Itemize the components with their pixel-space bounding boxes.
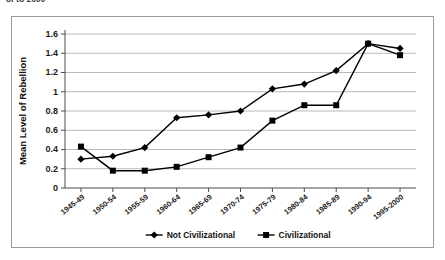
ytick-label-1.6: 1.6: [45, 29, 58, 39]
xtick-label-4: 1965-69: [187, 192, 214, 216]
legend-label-1: Civilizational: [279, 230, 331, 240]
data-point-0-4: [205, 111, 212, 118]
ytick-label-0.8: 0.8: [45, 106, 58, 116]
xtick-label-9: 1990-94: [346, 192, 374, 217]
y-axis-title: Mean Level of Rebellion: [17, 57, 28, 165]
data-point-0-7: [301, 80, 308, 87]
series-line-0: [81, 44, 400, 160]
data-point-1-10: [397, 52, 403, 58]
xtick-label-6: 1975-79: [250, 192, 277, 216]
data-point-1-1: [110, 168, 116, 174]
data-point-1-5: [238, 145, 244, 151]
data-point-1-3: [174, 164, 180, 170]
legend-item-0[interactable]: Not Civilizational: [146, 230, 235, 240]
series-civilizational: [78, 41, 403, 174]
data-point-1-0: [78, 144, 84, 150]
data-point-1-2: [142, 168, 148, 174]
xtick-label-0: 1945-49: [59, 192, 86, 216]
data-point-0-10: [396, 45, 403, 52]
xtick-label-7: 1980-84: [282, 192, 310, 217]
ytick-label-1: 1: [53, 87, 58, 97]
ytick-label-1.2: 1.2: [45, 67, 58, 77]
data-point-1-7: [301, 102, 307, 108]
data-point-1-9: [365, 41, 371, 47]
data-point-1-8: [333, 102, 339, 108]
data-point-0-0: [77, 156, 84, 163]
legend-marker-1: [263, 232, 269, 238]
legend-label-0: Not Civilizational: [167, 230, 235, 240]
xtick-label-5: 1970-74: [218, 192, 246, 217]
ytick-label-0.2: 0.2: [45, 164, 58, 174]
ytick-label-0.4: 0.4: [45, 144, 58, 154]
chart-frame: 00.20.40.60.811.21.41.6Mean Level of Reb…: [11, 16, 434, 248]
chart-plot-area: 00.20.40.60.811.21.41.6Mean Level of Reb…: [12, 17, 435, 249]
xtick-label-10: 1995-2000: [371, 192, 405, 221]
legend-item-1[interactable]: Civilizational: [258, 230, 331, 240]
ytick-label-0.6: 0.6: [45, 125, 58, 135]
data-point-1-4: [206, 154, 212, 160]
data-point-0-1: [109, 153, 116, 160]
data-point-1-6: [269, 118, 275, 124]
rebellion-line-chart: 00.20.40.60.811.21.41.6Mean Level of Reb…: [12, 17, 435, 249]
xtick-label-8: 1985-89: [314, 192, 341, 216]
page-title-partial: of to 2000: [6, 0, 45, 4]
ytick-label-0: 0: [53, 183, 58, 193]
legend-marker-0: [151, 231, 158, 238]
ytick-label-1.4: 1.4: [45, 48, 58, 58]
series-not-civilizational: [77, 40, 403, 163]
xtick-label-3: 1960-64: [155, 192, 183, 217]
xtick-label-2: 1955-59: [123, 192, 150, 216]
xtick-label-1: 1950-54: [91, 192, 119, 217]
